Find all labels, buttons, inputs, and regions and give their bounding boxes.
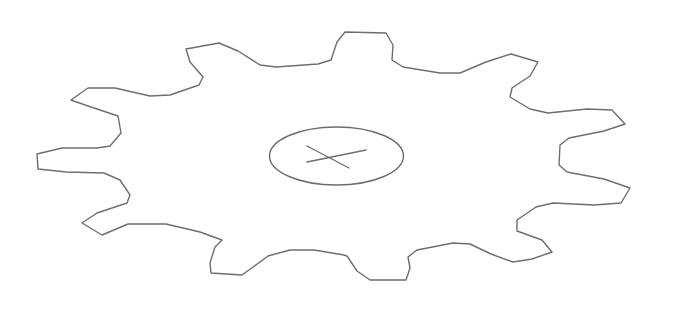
gear-drawing bbox=[0, 0, 674, 311]
drawing-canvas: Gear outline drawing bbox=[0, 0, 674, 311]
center-cross-line-a bbox=[307, 146, 349, 168]
center-cross-line-b bbox=[307, 150, 366, 162]
